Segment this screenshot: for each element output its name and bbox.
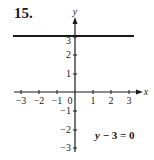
y-axis-label: y: [72, 6, 78, 17]
y-tick-label: 1: [66, 68, 71, 79]
y-tick-label: −3: [60, 142, 71, 153]
y-tick-label: −2: [60, 124, 71, 135]
x-tick-label: 3: [127, 95, 132, 106]
y-tick-label: 3: [66, 35, 71, 46]
equation-label: y − 3 = 0: [95, 129, 134, 141]
x-tick-label: −2: [34, 95, 45, 106]
equation-rest: − 3 = 0: [100, 129, 135, 141]
y-tick-label: 2: [66, 49, 71, 60]
y-tick-label: −1: [60, 105, 71, 116]
x-axis-label: x: [143, 86, 149, 97]
x-axis-arrow-icon: [136, 90, 143, 95]
y-axis-arrow-icon: [73, 17, 78, 24]
x-tick-label: 1: [91, 95, 96, 106]
x-tick-label: −3: [16, 95, 27, 106]
x-tick-label: 2: [109, 95, 114, 106]
